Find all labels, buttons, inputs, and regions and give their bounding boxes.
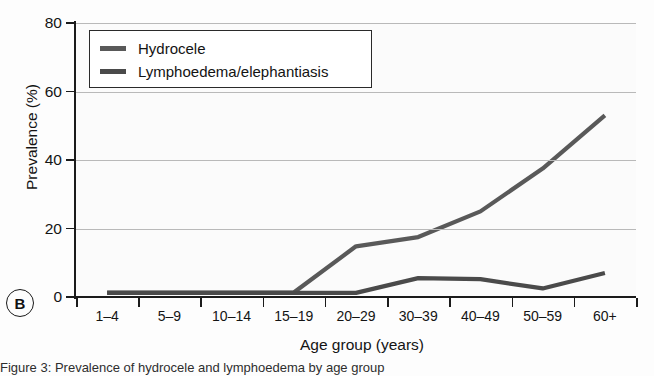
gridline [76,92,636,93]
x-tick-mark [76,298,78,307]
x-tick-label: 5–9 [158,308,181,324]
legend-item: Lymphoedema/elephantiasis [100,60,361,83]
y-tick-mark [66,159,75,161]
x-tick-label: 50–59 [523,308,562,324]
x-tick-label: 10–14 [212,308,251,324]
gridline [76,23,636,24]
x-tick-mark [387,298,389,307]
x-tick-mark [574,298,576,307]
x-axis-title: Age group (years) [70,336,654,354]
y-tick-mark [66,296,75,298]
legend-line-swatch-icon [100,69,126,74]
gridline [76,160,636,161]
chart-legend: HydroceleLymphoedema/elephantiasis [89,30,372,88]
x-tick-label: 60+ [593,308,617,324]
figure-caption: Figure 3: Prevalence of hydrocele and ly… [0,360,654,376]
legend-line-swatch-icon [100,46,126,51]
y-axis-title: Prevalence (%) [23,42,41,232]
x-tick-mark [512,298,514,307]
gridline [76,229,636,230]
legend-item: Hydrocele [100,37,361,60]
x-tick-label: 1–4 [95,308,118,324]
y-tick-label: 0 [16,289,62,305]
legend-label: Hydrocele [138,41,206,56]
y-tick-label: 20 [16,221,62,237]
x-tick-label: 40–49 [461,308,500,324]
y-tick-mark [66,91,75,93]
x-tick-mark [200,298,202,307]
x-tick-mark [263,298,265,307]
y-tick-mark [66,228,75,230]
series-line-1 [107,115,605,292]
y-tick-label: 40 [16,152,62,168]
x-tick-label: 30–39 [399,308,438,324]
x-tick-mark [636,298,638,307]
x-tick-label: 15–19 [274,308,313,324]
series-line-2 [107,273,605,293]
x-tick-label: 20–29 [337,308,376,324]
x-tick-mark [449,298,451,307]
y-tick-label: 60 [16,84,62,100]
x-tick-mark [138,298,140,307]
y-tick-label: 80 [16,15,62,31]
y-tick-mark [66,22,75,24]
legend-label: Lymphoedema/elephantiasis [138,64,328,79]
x-tick-mark [325,298,327,307]
x-axis-line [74,296,636,298]
figure-panel: B Prevalence (%) Age group (years) 02040… [0,0,654,376]
